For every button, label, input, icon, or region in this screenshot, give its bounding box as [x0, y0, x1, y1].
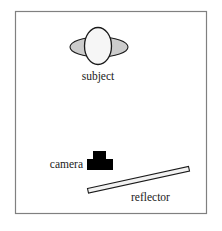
- camera-body-block: [87, 159, 113, 170]
- lighting-setup-diagram: subject camera reflector: [0, 0, 222, 231]
- camera-lens-block: [93, 151, 106, 160]
- reflector-label: reflector: [131, 191, 170, 203]
- diagram-canvas: subject camera reflector: [0, 0, 222, 231]
- subject-label: subject: [82, 70, 115, 83]
- camera-label: camera: [50, 158, 83, 170]
- subject-head-ellipse: [85, 28, 112, 65]
